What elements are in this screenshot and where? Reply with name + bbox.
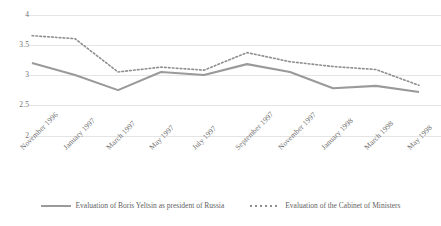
- x-axis-tick-label: September 1997: [234, 110, 275, 151]
- x-axis-tick-label: January 1998: [320, 117, 355, 152]
- x-axis-tick-label: May 1997: [148, 124, 176, 152]
- x-axis-tick-label: November 1997: [277, 111, 318, 152]
- legend-swatch-solid-icon: [41, 203, 71, 210]
- x-axis-tick-label: May 1998: [406, 124, 434, 152]
- x-axis-tick-label: January 1997: [62, 117, 97, 152]
- x-axis-tick-label: March 1998: [363, 120, 395, 152]
- legend-swatch-dotted-icon: [250, 203, 280, 210]
- x-axis-tick-label: November 1996: [19, 111, 60, 152]
- legend-item-cabinet-of-ministers: Evaluation of the Cabinet of Ministers: [250, 202, 400, 210]
- legend-item-boris-yeltsin: Evaluation of Boris Yeltsin as president…: [41, 202, 225, 210]
- x-axis-tick-label: March 1997: [105, 120, 137, 152]
- chart-legend: Evaluation of Boris Yeltsin as president…: [0, 196, 441, 216]
- legend-label-boris-yeltsin: Evaluation of Boris Yeltsin as president…: [76, 202, 225, 210]
- x-axis-tick-label: July 1997: [191, 125, 218, 152]
- x-axis: November 1996January 1997March 1997May 1…: [0, 0, 441, 226]
- legend-label-cabinet-of-ministers: Evaluation of the Cabinet of Ministers: [285, 202, 400, 210]
- line-chart: 43.532.52 November 1996January 1997March…: [0, 0, 441, 226]
